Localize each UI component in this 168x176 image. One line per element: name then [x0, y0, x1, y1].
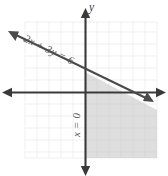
vertical-line-label-text: x = 0 — [70, 112, 82, 138]
graph-figure: 2x + 3y = 6 x = 0 y — [0, 0, 168, 176]
y-axis-label-text: y — [88, 1, 95, 14]
coordinate-plane-svg: 2x + 3y = 6 x = 0 y — [0, 0, 168, 176]
y-axis-label: y — [88, 1, 95, 14]
vertical-line-label: x = 0 — [70, 112, 82, 138]
